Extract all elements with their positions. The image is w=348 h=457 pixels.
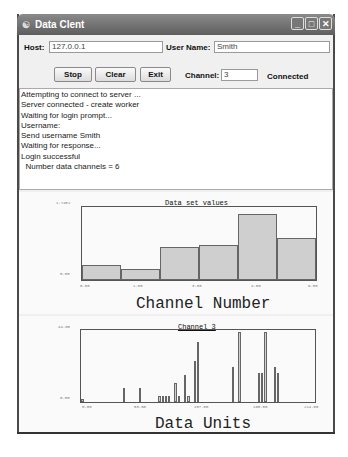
- chart-bar: [258, 373, 260, 402]
- chart-bar: [123, 388, 125, 402]
- chart-bar: [238, 214, 276, 281]
- chart-bar: [178, 396, 180, 402]
- chart-bar: [264, 332, 266, 402]
- x-tick: 6.00: [308, 284, 318, 288]
- y-tick-min: 0.00: [60, 396, 70, 400]
- channel-label: Channel:: [185, 71, 219, 80]
- chart-bar: [274, 367, 276, 402]
- maximize-button[interactable]: □: [305, 17, 318, 30]
- close-button[interactable]: ✕: [319, 17, 332, 30]
- histogram-plot-area: [80, 329, 316, 403]
- chart-bar: [187, 396, 189, 402]
- chart-bar: [139, 388, 141, 402]
- channel-input[interactable]: 3: [221, 69, 258, 81]
- x-tick: 107.00: [194, 405, 208, 409]
- log-line: Send username Smith: [21, 131, 331, 141]
- exit-button[interactable]: Exit: [140, 67, 171, 82]
- app-icon: ☯: [22, 20, 30, 30]
- x-tick: 0.00: [82, 405, 92, 409]
- x-axis-label: Channel Number: [136, 295, 270, 313]
- chart-bar: [238, 332, 240, 402]
- y-tick-max: 1.74E2: [56, 201, 70, 205]
- title-bar[interactable]: ☯ Data Clent _ □ ✕: [17, 14, 335, 35]
- username-label: User Name:: [166, 43, 210, 52]
- chart-bar: [81, 399, 83, 402]
- window-title: Data Clent: [35, 19, 84, 30]
- chart-bar: [232, 367, 234, 402]
- log-line: Waiting for login prompt...: [21, 111, 331, 121]
- chart-bar: [184, 375, 186, 402]
- channel-histogram-panel: 44.00 0.00 Channel 3 0.00 53.50 107.00 1…: [19, 316, 333, 432]
- chart-bar: [168, 396, 170, 402]
- dataset-chart-panel: 1.74E2 0.00 Data set values 0.00 1.50 3.…: [19, 192, 333, 314]
- y-tick-min: 0.00: [60, 272, 70, 276]
- x-axis-label: Data Units: [155, 415, 251, 433]
- connection-status: Connected: [267, 72, 308, 81]
- chart-bar: [199, 245, 237, 280]
- log-line: Username:: [21, 121, 331, 131]
- clear-button[interactable]: Clear: [95, 67, 136, 82]
- x-tick: 214.00: [304, 405, 318, 409]
- chart-bar: [174, 383, 176, 402]
- window-bottom-border: [17, 432, 335, 434]
- log-textarea[interactable]: Attempting to connect to server ... Serv…: [19, 88, 333, 190]
- username-input[interactable]: Smith: [214, 41, 330, 53]
- log-line: Waiting for response...: [21, 141, 331, 151]
- chart-bar: [277, 238, 315, 280]
- chart-bar: [165, 396, 167, 402]
- chart-bar: [277, 373, 279, 402]
- x-tick: 160.50: [253, 405, 267, 409]
- chart-bar: [121, 269, 159, 280]
- log-line: Login successful: [21, 152, 331, 162]
- chart-bar: [194, 361, 196, 402]
- x-tick: 1.50: [133, 284, 143, 288]
- chart-bar: [197, 342, 199, 402]
- log-line: Attempting to connect to server ...: [21, 90, 331, 100]
- log-line: Number data channels = 6: [21, 162, 331, 172]
- log-line: Server connected - create worker: [21, 100, 331, 110]
- stop-button[interactable]: Stop: [54, 67, 92, 82]
- x-tick: 3.00: [192, 284, 202, 288]
- y-tick-max: 44.00: [58, 325, 70, 329]
- x-tick: 4.50: [251, 284, 261, 288]
- chart-bar: [158, 396, 160, 402]
- x-tick: 53.50: [134, 405, 146, 409]
- chart-bar: [162, 396, 164, 402]
- host-label: Host:: [24, 43, 44, 52]
- dataset-plot-area: [81, 206, 317, 281]
- chart-bar: [82, 265, 120, 280]
- chart-bar: [261, 373, 263, 402]
- host-input[interactable]: 127.0.0.1: [49, 41, 163, 53]
- x-tick: 0.00: [80, 284, 90, 288]
- minimize-button[interactable]: _: [291, 17, 304, 30]
- chart-bar: [160, 247, 198, 280]
